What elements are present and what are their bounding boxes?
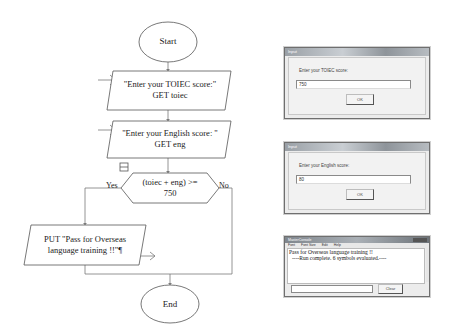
menu-edit[interactable]: Edit [322,243,328,247]
window-controls[interactable] [413,238,427,242]
menu-font[interactable]: Font [288,243,295,247]
clear-button[interactable]: Clear [378,284,403,294]
dialog-title: Input [285,143,429,151]
menu-help[interactable]: Help [334,243,341,247]
console-title-bar: MasterConsole [285,237,429,243]
start-label: Start [139,36,197,47]
dialog-prompt: Enter your TOIEC score: [299,68,348,73]
console-scrollbar[interactable] [426,248,429,282]
flowchart-diagram [0,0,260,334]
ok-button[interactable]: OK [346,94,374,105]
output-line1: PUT "Pass for Overseas [27,234,143,245]
dialog-prompt: Enter your English score: [299,163,349,168]
input-toiec-prompt: "Enter your TOIEC score:" [112,79,228,90]
input-toiec-get: GET toiec [112,90,228,101]
dialog-body: Enter your English score: 80 OK [288,152,426,210]
no-label: No [219,180,235,191]
console-title: MasterConsole [288,238,312,242]
decision-value: 750 [128,188,212,199]
console-output: Pass for Overseas language training !! -… [287,248,425,284]
decision-condition: (toiec + eng) >= [128,177,212,188]
toiec-input-dialog: Input Enter your TOIEC score: 750 OK [284,47,430,119]
input-eng-prompt: "Enter your English score: " [112,128,228,139]
output-line2: language training !!"¶ [27,245,143,256]
end-label: End [141,299,199,310]
console-input[interactable] [291,285,373,293]
master-console-window: MasterConsole Font Font Size Edit Help P… [284,236,430,297]
toiec-score-input[interactable]: 750 [296,80,411,89]
yes-label: Yes [106,180,124,191]
flowchart: Start "Enter your TOIEC score:" GET toie… [0,0,260,334]
console-output-line: ----Run complete. 6 symbols evaluated.--… [289,255,424,261]
dialog-title: Input [285,48,429,56]
english-score-input[interactable]: 80 [296,175,411,184]
dialog-body: Enter your TOIEC score: 750 OK [288,57,426,115]
input-eng-get: GET eng [112,139,228,150]
english-input-dialog: Input Enter your English score: 80 OK [284,142,430,214]
menu-font-size[interactable]: Font Size [301,243,316,247]
ok-button[interactable]: OK [346,189,374,200]
